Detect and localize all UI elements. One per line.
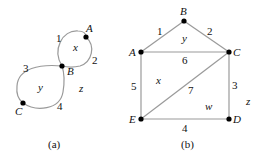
edge-label-a-2: 2	[92, 54, 98, 66]
edge-label-b-5: 5	[131, 80, 137, 92]
edge-label-a-4: 4	[57, 100, 63, 112]
graph-a: A B C 1 2 3 4 x y z (a)	[15, 22, 98, 151]
vertex-b-B	[181, 18, 186, 23]
vertex-label-b-B: B	[180, 5, 187, 17]
vertex-a-B	[59, 63, 64, 68]
face-label-b-y: y	[181, 32, 187, 44]
edge-label-a-1: 1	[56, 32, 62, 44]
vertex-label-a-A: A	[85, 22, 93, 34]
planar-graphs-figure: A B C 1 2 3 4 x y z (a) A B C D E 1 2 3 …	[0, 0, 259, 155]
edge-b-1	[141, 21, 184, 52]
edge-label-b-2: 2	[207, 25, 213, 37]
vertex-b-E	[138, 116, 143, 121]
vertex-label-b-C: C	[233, 46, 241, 58]
vertex-label-a-B: B	[67, 65, 74, 77]
vertex-b-A	[138, 49, 143, 54]
vertex-label-b-A: A	[128, 46, 136, 58]
vertex-label-a-C: C	[15, 105, 23, 117]
face-label-a-z: z	[78, 82, 84, 94]
vertex-label-b-D: D	[232, 113, 241, 125]
edge-label-b-1: 1	[157, 25, 163, 37]
edge-label-b-7: 7	[188, 84, 194, 96]
face-label-b-w: w	[205, 100, 213, 112]
face-label-a-y: y	[37, 81, 43, 93]
face-label-a-x: x	[72, 41, 78, 53]
face-label-b-x: x	[155, 74, 161, 86]
graph-b: A B C D E 1 2 3 4 5 6 7 y x w z (b)	[128, 5, 251, 151]
face-label-b-z: z	[245, 95, 251, 107]
vertex-b-C	[226, 49, 231, 54]
vertex-label-b-E: E	[128, 113, 136, 125]
edge-label-b-3: 3	[232, 79, 238, 91]
caption-b: (b)	[181, 138, 194, 151]
edge-label-b-4: 4	[182, 122, 188, 134]
caption-a: (a)	[48, 138, 61, 151]
vertex-b-D	[226, 116, 231, 121]
vertex-a-A	[83, 34, 88, 39]
edge-label-a-3: 3	[23, 62, 29, 74]
edge-a-1	[58, 31, 86, 66]
edge-label-b-6: 6	[182, 54, 188, 66]
